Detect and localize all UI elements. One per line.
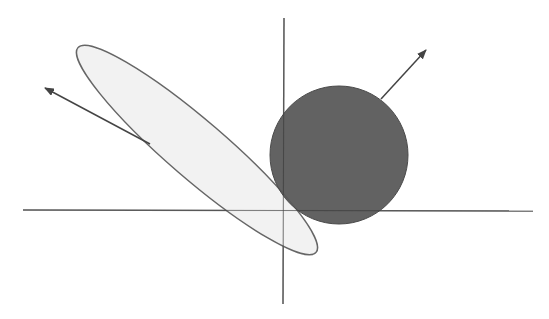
diagram-canvas bbox=[0, 0, 549, 319]
dark-circle bbox=[270, 86, 408, 224]
